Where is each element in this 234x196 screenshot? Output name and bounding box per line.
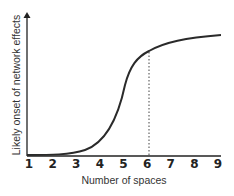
x-axis-label: Number of spaces <box>81 174 166 186</box>
x-tick-label: 5 <box>119 157 127 171</box>
y-axis-arrow-icon <box>24 12 31 18</box>
x-tick-label: 4 <box>96 157 104 171</box>
y-axis-label: Likely onset of network effects <box>10 15 22 155</box>
x-tick-label: 3 <box>72 157 80 171</box>
x-tick-label: 1 <box>25 157 33 171</box>
x-tick-label: 9 <box>214 157 222 171</box>
s-curve-line <box>27 35 221 155</box>
x-tick-label: 2 <box>48 157 56 171</box>
x-tick-label: 8 <box>190 157 198 171</box>
x-tick-label: 7 <box>167 157 175 171</box>
x-tick-labels: 123456789 <box>25 157 222 171</box>
x-tick-label: 6 <box>143 157 151 171</box>
s-curve-chart: 123456789 Number of spaces Likely onset … <box>0 0 234 196</box>
